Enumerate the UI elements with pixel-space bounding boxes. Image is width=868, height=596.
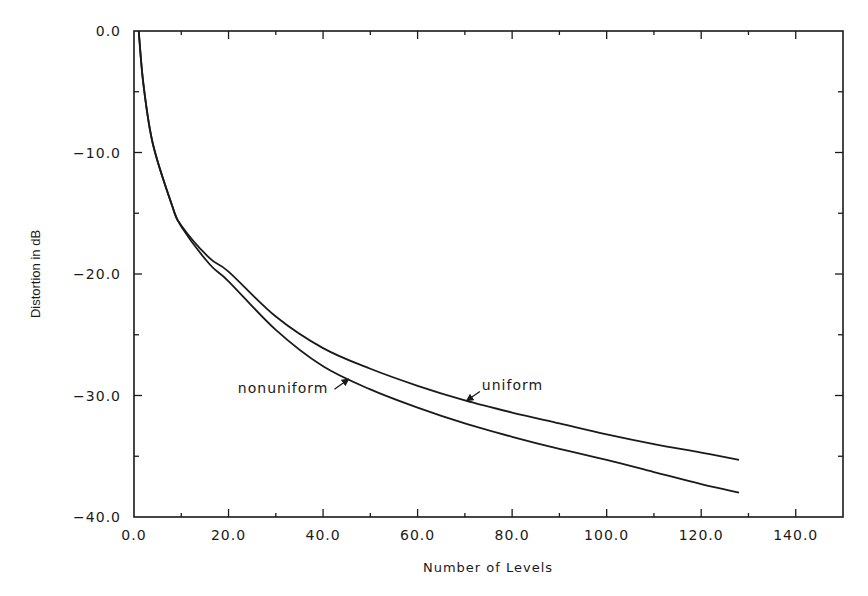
x-tick-label: 140.0 [773, 527, 818, 543]
arrow-nonuniform [334, 379, 348, 389]
plot-border [134, 31, 843, 517]
arrow-uniform [467, 392, 480, 401]
y-tick-label: −30.0 [73, 388, 121, 404]
plot-frame [134, 31, 843, 517]
series-line-uniform [139, 31, 739, 460]
y-tick-label: 0.0 [96, 23, 121, 39]
x-tick-label: 20.0 [211, 527, 246, 543]
annotation-nonuniform: nonuniform [238, 380, 329, 396]
x-axis-ticks: 0.020.040.060.080.0100.0120.0140.0 [121, 31, 818, 543]
series-lines [139, 31, 739, 493]
chart: 0.020.040.060.080.0100.0120.0140.0 0.0−1… [0, 0, 868, 596]
x-tick-label: 100.0 [584, 527, 629, 543]
y-axis-label: Distortion in dB [28, 230, 43, 318]
annotation-uniform: uniform [482, 377, 543, 393]
y-tick-label: −10.0 [73, 145, 121, 161]
y-tick-label: −20.0 [73, 266, 121, 282]
x-tick-label: 120.0 [679, 527, 724, 543]
x-tick-label: 0.0 [121, 527, 146, 543]
y-tick-label: −40.0 [73, 509, 121, 525]
y-axis-ticks: 0.0−10.0−20.0−30.0−40.0 [73, 23, 843, 525]
x-tick-label: 80.0 [495, 527, 530, 543]
series-line-nonuniform [139, 31, 739, 493]
x-axis-label: Number of Levels [423, 560, 553, 575]
x-tick-label: 40.0 [305, 527, 340, 543]
x-tick-label: 60.0 [400, 527, 435, 543]
